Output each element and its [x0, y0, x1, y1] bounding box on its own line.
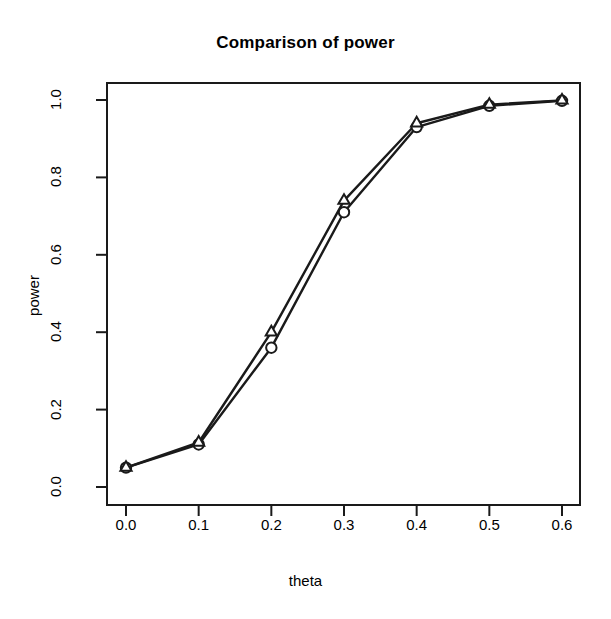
y-tick-label: 0.0: [47, 457, 64, 517]
y-axis-label: power: [25, 251, 42, 341]
x-tick-label: 0.5: [459, 516, 519, 533]
x-tick-label: 0.2: [241, 516, 301, 533]
x-tick-label: 0.0: [96, 516, 156, 533]
y-tick-label: 0.2: [47, 379, 64, 439]
x-tick-label: 0.6: [532, 516, 592, 533]
series-line-triangle: [126, 100, 562, 467]
x-tick-label: 0.1: [169, 516, 229, 533]
chart-plot-area: [0, 0, 611, 619]
x-axis-label: theta: [0, 572, 611, 589]
data-point-triangle: [120, 461, 131, 471]
y-tick-label: 0.6: [47, 224, 64, 284]
plot-box: [107, 83, 580, 505]
x-tick-label: 0.3: [314, 516, 374, 533]
data-point-triangle: [556, 94, 567, 104]
y-tick-label: 1.0: [47, 70, 64, 130]
data-point-circle: [266, 342, 276, 352]
y-tick-label: 0.8: [47, 147, 64, 207]
x-tick-label: 0.4: [387, 516, 447, 533]
data-point-triangle: [411, 117, 422, 127]
y-tick-label: 0.4: [47, 302, 64, 362]
data-point-circle: [339, 207, 349, 217]
data-point-triangle: [484, 98, 495, 108]
power-comparison-figure: Comparison of power theta power 0.00.10.…: [0, 0, 611, 619]
series-line-circle: [126, 101, 562, 468]
